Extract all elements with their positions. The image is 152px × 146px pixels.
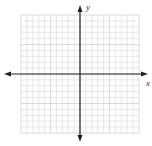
x-axis-arrow-left-icon — [4, 72, 11, 77]
x-axis-arrow-right-icon — [141, 72, 148, 77]
y-axis-label: y — [85, 2, 90, 12]
x-axis-label: x — [145, 78, 150, 88]
y-axis-arrow-up-icon — [78, 5, 83, 12]
y-axis-arrow-down-icon — [78, 135, 83, 142]
coordinate-plane: x y — [0, 0, 152, 146]
